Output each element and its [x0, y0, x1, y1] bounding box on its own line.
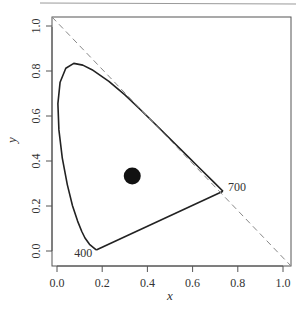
y-tick-label: 0.8: [29, 64, 43, 79]
y-tick-label: 0.2: [29, 199, 43, 214]
x-tick-label: 0.8: [230, 276, 245, 290]
y-tick-label: 0.4: [29, 154, 43, 169]
y-tick-label: 1.0: [29, 19, 43, 34]
y-tick-label: 0.6: [29, 109, 43, 124]
x-tick-label: 1.0: [276, 276, 291, 290]
x-tick-label: 0.6: [185, 276, 200, 290]
y-axis-label: y: [4, 137, 19, 145]
plot-area: 400700: [52, 17, 291, 266]
wavelength-label-400: 400: [74, 246, 92, 260]
x-axis-label: x: [166, 288, 173, 303]
x-y-1-line: [52, 17, 291, 266]
wavelength-label-700: 700: [228, 180, 246, 194]
x-tick-label: 0.0: [50, 276, 65, 290]
cie-chromaticity-chart: 400700 0.00.20.40.60.81.0 0.00.20.40.60.…: [0, 0, 304, 314]
y-axis: 0.00.20.40.60.81.0: [29, 19, 52, 259]
x-tick-label: 0.4: [140, 276, 155, 290]
y-tick-label: 0.0: [29, 244, 43, 259]
white-point-marker: [124, 168, 141, 185]
x-axis: 0.00.20.40.60.81.0: [50, 266, 291, 290]
spectral-locus-line: [58, 63, 223, 250]
line-of-purples-line: [96, 191, 223, 250]
top-rule: [40, 3, 296, 4]
x-tick-label: 0.2: [95, 276, 110, 290]
